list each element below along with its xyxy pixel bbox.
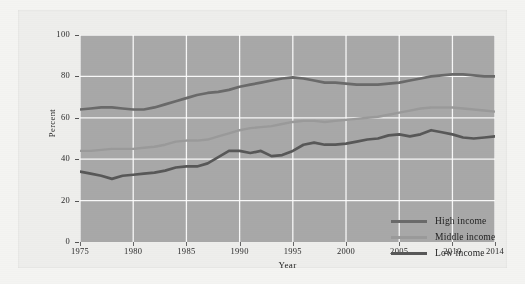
figure-panel: Percent 020406080100 1975198019851990199… (18, 10, 507, 268)
x-tick-label: 1975 (56, 246, 104, 256)
x-tick-mark (186, 242, 187, 246)
x-tick-label: 1990 (216, 246, 264, 256)
legend-label: Low income (435, 248, 485, 258)
legend-item: High income (391, 213, 525, 229)
series-line-0 (80, 74, 495, 109)
x-tick-mark (80, 242, 81, 246)
y-tick-label: 40 (18, 153, 70, 163)
y-axis-title: Percent (47, 83, 57, 163)
legend-item: Low income (391, 245, 525, 261)
plot-area: High incomeMiddle incomeLow income (80, 35, 495, 242)
x-tick-mark (293, 242, 294, 246)
chart-figure: Percent 020406080100 1975198019851990199… (0, 0, 525, 284)
legend-swatch-icon (391, 220, 427, 223)
legend-swatch-icon (391, 236, 427, 239)
x-tick-label: 1985 (162, 246, 210, 256)
x-tick-label: 1995 (269, 246, 317, 256)
y-tick-mark (75, 159, 79, 160)
legend-swatch-icon (391, 252, 427, 255)
x-tick-mark (133, 242, 134, 246)
legend-label: High income (435, 216, 487, 226)
y-tick-mark (75, 76, 79, 77)
y-tick-mark (75, 242, 79, 243)
y-tick-mark (75, 35, 79, 36)
x-tick-label: 2000 (322, 246, 370, 256)
y-tick-label: 60 (18, 112, 70, 122)
x-axis-title: Year (80, 260, 495, 270)
y-tick-label: 100 (18, 29, 70, 39)
legend-label: Middle income (435, 232, 495, 242)
y-tick-label: 80 (18, 70, 70, 80)
y-tick-mark (75, 201, 79, 202)
data-lines (80, 35, 495, 242)
x-tick-label: 1980 (109, 246, 157, 256)
legend-item: Middle income (391, 229, 525, 245)
chart-legend: High incomeMiddle incomeLow income (391, 213, 525, 261)
y-tick-label: 20 (18, 195, 70, 205)
y-tick-mark (75, 118, 79, 119)
series-line-2 (80, 130, 495, 179)
x-tick-mark (346, 242, 347, 246)
y-tick-label: 0 (18, 236, 70, 246)
x-tick-mark (240, 242, 241, 246)
